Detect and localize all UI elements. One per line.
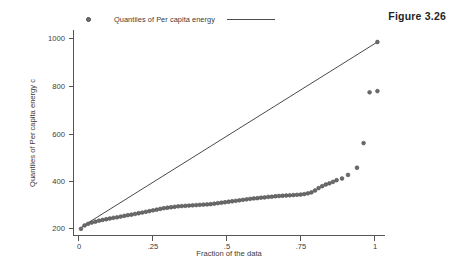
plot-area: 1000 800 600 400 200 0 .25 .5 .75 1	[73, 30, 385, 236]
data-layer	[73, 30, 385, 236]
y-axis-tick-label: 400	[52, 177, 65, 186]
scatter-point	[162, 206, 166, 210]
scatter-point	[130, 213, 134, 217]
scatter-point	[104, 217, 108, 221]
y-axis-tick-label: 600	[52, 130, 65, 139]
scatter-point	[340, 177, 344, 181]
reference-line-swatch-icon	[227, 19, 275, 20]
x-axis-tick: .75	[300, 236, 301, 241]
x-axis-tick: 0	[78, 236, 79, 241]
scatter-point	[112, 216, 116, 220]
scatter-point	[101, 218, 105, 222]
figure-container: Figure 3.26 Quantiles of Per capita ener…	[0, 0, 456, 269]
x-axis-title: Fraction of the data	[73, 249, 385, 258]
y-axis-tick-label: 200	[52, 224, 65, 233]
scatter-point	[86, 222, 90, 226]
scatter-point	[90, 221, 94, 225]
scatter-point	[328, 181, 332, 185]
x-axis-tick: 1	[374, 236, 375, 241]
scatter-point	[230, 199, 234, 203]
scatter-point	[302, 192, 306, 196]
scatter-point	[191, 203, 195, 207]
figure-caption-label: Figure 3.26	[388, 10, 446, 22]
y-axis-title: Quantiles of Per capita energy c	[28, 30, 37, 236]
scatter-point	[108, 217, 112, 221]
y-axis-tick-label: 1000	[48, 34, 65, 43]
scatter-point	[266, 195, 270, 199]
scatter-point	[320, 184, 324, 188]
scatter-point	[310, 191, 314, 195]
scatter-point	[223, 200, 227, 204]
scatter-point	[317, 186, 321, 190]
scatter-point	[148, 209, 152, 213]
scatter-point	[144, 210, 148, 214]
scatter-point	[176, 204, 180, 208]
scatter-point	[263, 196, 267, 200]
scatter-point	[245, 197, 249, 201]
scatter-point	[284, 194, 288, 198]
scatter-point	[227, 200, 231, 204]
scatter-point	[252, 196, 256, 200]
scatter-point	[126, 213, 130, 217]
scatter-point	[137, 211, 141, 215]
scatter-point	[288, 193, 292, 197]
scatter-point	[295, 193, 299, 197]
scatter-point	[169, 205, 173, 209]
scatter-point	[324, 183, 328, 187]
scatter-point	[202, 203, 206, 207]
scatter-point	[216, 201, 220, 205]
scatter-point	[376, 40, 380, 44]
x-axis-tick: .25	[152, 236, 153, 241]
scatter-point	[376, 89, 380, 93]
scatter-point	[140, 211, 144, 215]
scatter-point	[335, 178, 339, 182]
reference-line	[82, 42, 378, 227]
scatter-point	[209, 202, 213, 206]
legend-entry-label: Quantiles of Per capita energy	[114, 15, 215, 24]
scatter-point	[238, 198, 242, 202]
scatter-point	[270, 195, 274, 199]
scatter-point	[194, 203, 198, 207]
scatter-point	[180, 204, 184, 208]
scatter-point	[277, 194, 281, 198]
scatter-point	[151, 208, 155, 212]
scatter-point	[94, 220, 98, 224]
scatter-point	[133, 212, 137, 216]
y-axis-tick-label: 800	[52, 82, 65, 91]
chart-legend: Quantiles of Per capita energy	[86, 12, 275, 26]
scatter-point	[83, 224, 87, 228]
scatter-point	[158, 207, 162, 211]
scatter-point	[313, 189, 317, 193]
open-circle-marker-icon	[86, 17, 91, 22]
scatter-point	[292, 193, 296, 197]
scatter-point	[274, 194, 278, 198]
scatter-point	[259, 196, 263, 200]
scatter-point	[281, 194, 285, 198]
scatter-point	[97, 219, 101, 223]
x-axis-tick: .5	[226, 236, 227, 241]
scatter-point	[220, 201, 224, 205]
scatter-point	[205, 202, 209, 206]
scatter-point	[184, 204, 188, 208]
scatter-point	[234, 199, 238, 203]
scatter-point	[355, 166, 359, 170]
scatter-point	[256, 196, 260, 200]
scatter-point	[187, 204, 191, 208]
scatter-point	[241, 198, 245, 202]
scatter-point	[155, 208, 159, 212]
scatter-point	[248, 197, 252, 201]
scatter-point	[79, 227, 83, 231]
scatter-point	[198, 203, 202, 207]
scatter-point	[166, 206, 170, 210]
scatter-point	[212, 202, 216, 206]
scatter-point	[119, 215, 123, 219]
scatter-point	[368, 90, 372, 94]
scatter-point	[306, 191, 310, 195]
scatter-point	[346, 173, 350, 177]
scatter-point	[122, 214, 126, 218]
scatter-point	[362, 141, 366, 145]
scatter-point	[299, 193, 303, 197]
scatter-point	[173, 205, 177, 209]
scatter-point	[331, 180, 335, 184]
scatter-point	[115, 215, 119, 219]
